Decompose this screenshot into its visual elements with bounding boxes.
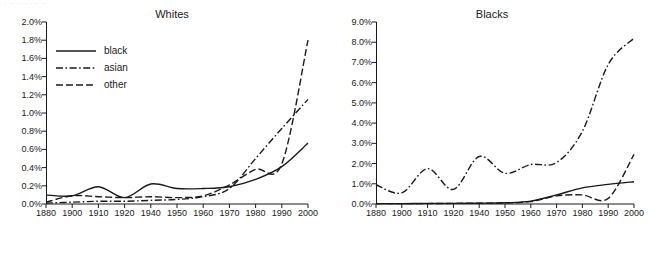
y-tick-label: 2.0%	[351, 159, 372, 168]
x-tick-label: 1900	[62, 209, 82, 218]
legend-item-asian: asian	[56, 59, 128, 76]
y-tick-label: 3.0%	[351, 139, 372, 148]
x-tick-label: 1960	[521, 209, 541, 218]
y-tick-label: 7.0%	[351, 58, 372, 67]
series-line-white	[376, 38, 634, 193]
plot-area-blacks	[376, 22, 634, 204]
series-line-black	[46, 143, 308, 198]
legend-label: asian	[104, 63, 128, 73]
y-tick-label: 1.8%	[21, 36, 42, 45]
plot-svg-blacks	[376, 22, 634, 204]
x-tick-label: 1980	[246, 209, 266, 218]
x-axis-labels-blacks: 1880190019101920194019501960197019801990…	[376, 209, 634, 223]
x-tick-label: 1880	[366, 209, 386, 218]
legend-item-black: black	[56, 42, 128, 59]
x-tick-label: 1990	[598, 209, 618, 218]
x-tick-label: 1950	[167, 209, 187, 218]
y-tick-label: 1.0%	[351, 179, 372, 188]
y-tick-label: 1.2%	[21, 90, 42, 99]
y-axis-labels-blacks: 0.0%1.0%2.0%3.0%4.0%5.0%6.0%7.0%8.0%9.0%	[324, 22, 372, 204]
y-tick-label: 1.6%	[21, 54, 42, 63]
chart-panel-whites: Whites 0.0%0.2%0.4%0.6%0.8%1.0%1.2%1.4%1…	[0, 0, 324, 230]
figure-root: · ·· ···· ··· ·· Whites 0.0%0.2%0.4%0.6%…	[0, 0, 648, 254]
chart-title-blacks: Blacks	[324, 8, 648, 20]
x-tick-label: 1960	[193, 209, 213, 218]
x-tick-label: 1940	[141, 209, 161, 218]
y-tick-label: 9.0%	[351, 18, 372, 27]
legend-swatch-solid-icon	[56, 46, 96, 56]
x-tick-label: 1970	[219, 209, 239, 218]
x-tick-label: 1990	[272, 209, 292, 218]
y-tick-label: 4.0%	[351, 119, 372, 128]
y-tick-label: 1.0%	[21, 109, 42, 118]
y-tick-label: 6.0%	[351, 78, 372, 87]
axes-blacks	[372, 22, 634, 208]
y-tick-label: 0.4%	[21, 163, 42, 172]
x-tick-label: 1900	[392, 209, 412, 218]
y-tick-label: 1.4%	[21, 72, 42, 81]
x-tick-label: 1970	[547, 209, 567, 218]
y-tick-label: 8.0%	[351, 38, 372, 47]
x-tick-label: 1950	[495, 209, 515, 218]
y-tick-label: 0.6%	[21, 145, 42, 154]
legend-whites: blackasianother	[56, 42, 128, 93]
x-tick-label: 2000	[298, 209, 318, 218]
x-tick-label: 1880	[36, 209, 56, 218]
series-group-blacks	[376, 38, 634, 203]
series-line-asian	[376, 182, 634, 204]
y-axis-labels-whites: 0.0%0.2%0.4%0.6%0.8%1.0%1.2%1.4%1.6%1.8%…	[0, 22, 42, 204]
legend-swatch-dashed-icon	[56, 80, 96, 90]
legend-label: other	[104, 80, 127, 90]
x-tick-label: 1910	[88, 209, 108, 218]
legend-swatch-dashdot-icon	[56, 63, 96, 73]
x-tick-label: 1920	[443, 209, 463, 218]
chart-panel-blacks: Blacks 0.0%1.0%2.0%3.0%4.0%5.0%6.0%7.0%8…	[324, 0, 648, 230]
x-tick-label: 2000	[624, 209, 644, 218]
y-tick-label: 5.0%	[351, 98, 372, 107]
x-tick-label: 1920	[115, 209, 135, 218]
x-tick-label: 1910	[418, 209, 438, 218]
series-line-asian	[46, 99, 308, 203]
y-tick-label: 0.2%	[21, 181, 42, 190]
y-tick-label: 0.8%	[21, 127, 42, 136]
x-tick-label: 1980	[572, 209, 592, 218]
legend-item-other: other	[56, 76, 128, 93]
x-tick-label: 1940	[469, 209, 489, 218]
chart-title-whites: Whites	[0, 8, 334, 20]
x-axis-labels-whites: 1880190019101920194019501960197019801990…	[46, 209, 308, 223]
y-tick-label: 2.0%	[21, 18, 42, 27]
legend-label: black	[104, 46, 127, 56]
